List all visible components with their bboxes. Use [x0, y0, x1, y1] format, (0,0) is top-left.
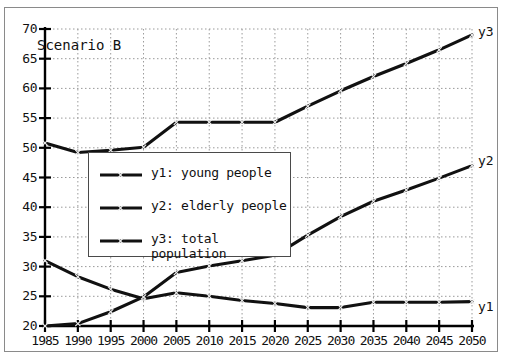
y-tick-label: 25 [5, 288, 37, 303]
legend-label-y1: y1: young people [151, 165, 271, 180]
y-tick-label: 20 [5, 318, 37, 333]
y-tick-label: 30 [5, 259, 37, 274]
y-tick-label: 55 [5, 110, 37, 125]
y-tick-label: 65 [5, 51, 37, 66]
legend: y1: young peopley2: elderly peopley3: to… [88, 152, 291, 257]
legend-item-y3: y3: total population [99, 231, 226, 261]
chart-figure: 2025303540455055606570 19851990199520002… [0, 0, 505, 358]
x-tick-label: 2050 [452, 333, 492, 348]
legend-item-y1: y1: young people [99, 165, 271, 181]
legend-swatch-y2 [99, 200, 143, 214]
legend-label-y3: y3: total population [151, 231, 226, 261]
y-tick-label: 45 [5, 170, 37, 185]
legend-label-y2: y2: elderly people [151, 198, 286, 213]
y-tick-label: 35 [5, 229, 37, 244]
y-tick-label: 40 [5, 199, 37, 214]
series-end-label-y1: y1 [478, 299, 494, 314]
series-end-label-y3: y3 [478, 24, 494, 39]
legend-swatch-y1 [99, 167, 143, 181]
y-tick-label: 50 [5, 140, 37, 155]
y-tick-label: 60 [5, 80, 37, 95]
scenario-annotation: Scenario B [37, 37, 121, 53]
y-tick-label: 70 [5, 21, 37, 36]
legend-item-y2: y2: elderly people [99, 198, 286, 214]
legend-swatch-y3 [99, 233, 143, 247]
series-end-label-y2: y2 [478, 153, 494, 168]
